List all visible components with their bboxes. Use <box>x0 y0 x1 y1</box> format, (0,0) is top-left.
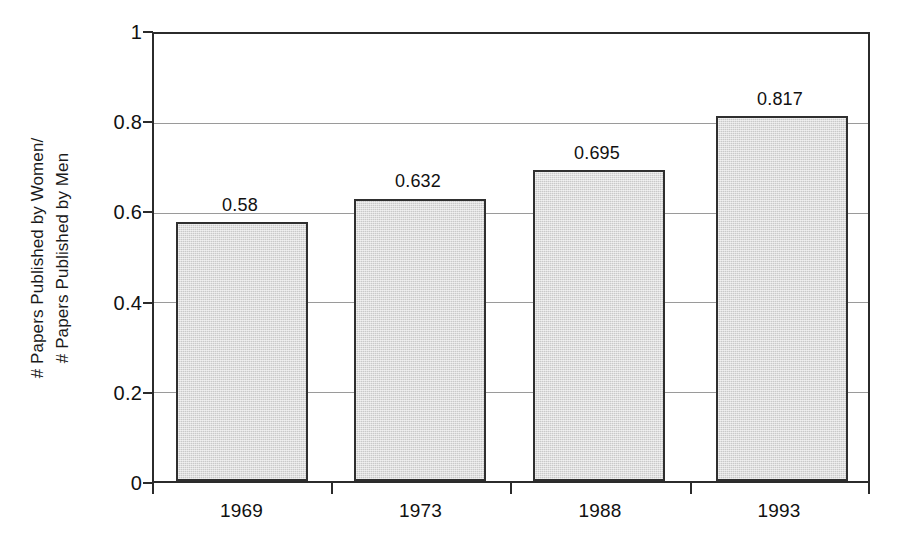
y-tick-label-0.8: 0.8 <box>86 111 142 134</box>
x-tick-mark-1 <box>331 483 333 494</box>
bar-1993 <box>716 116 848 481</box>
bar-value-label-1973: 0.632 <box>352 171 484 192</box>
x-axis-label-1969: 1969 <box>152 500 331 522</box>
figure-bar-chart: # Papers Published by Women/ # Papers Pu… <box>0 0 898 551</box>
x-tick-mark-3 <box>690 483 692 494</box>
x-axis-label-1988: 1988 <box>510 500 690 522</box>
bar-1988 <box>533 170 665 481</box>
y-axis-tick-labels: 0 0.2 0.4 0.6 0.8 1 <box>86 0 142 551</box>
x-tick-mark-2 <box>510 483 512 494</box>
bar-value-label-1988: 0.695 <box>531 143 663 164</box>
x-axis-label-1993: 1993 <box>690 500 868 522</box>
x-tick-mark-4 <box>868 483 870 494</box>
y-tick-label-0.4: 0.4 <box>86 291 142 314</box>
y-tick-label-0: 0 <box>86 472 142 495</box>
y-axis-title-line-2: # Papers Published by Men <box>50 137 75 378</box>
bar-value-label-1969: 0.58 <box>174 195 306 216</box>
y-tick-label-0.6: 0.6 <box>86 201 142 224</box>
y-axis-title-line-1: # Papers Published by Women/ <box>25 137 50 378</box>
bar-value-label-1993: 0.817 <box>714 89 846 110</box>
y-tick-label-0.2: 0.2 <box>86 381 142 404</box>
y-axis-title: # Papers Published by Women/ # Papers Pu… <box>0 32 100 483</box>
x-axis-label-1973: 1973 <box>331 500 510 522</box>
y-tick-label-1: 1 <box>86 21 142 44</box>
x-tick-mark-0 <box>152 483 154 494</box>
bar-1973 <box>354 199 486 482</box>
clipped-caption <box>14 540 574 551</box>
bar-1969 <box>176 222 308 481</box>
